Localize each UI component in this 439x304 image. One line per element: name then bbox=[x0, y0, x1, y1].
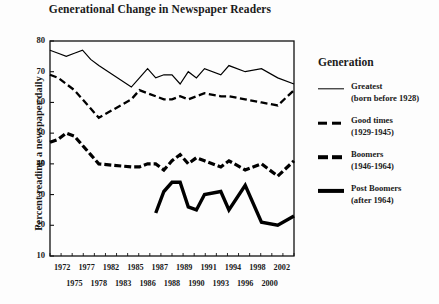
line-solid-thin-icon bbox=[318, 82, 344, 96]
legend-item-boomers[interactable]: Boomers (1946-1964) bbox=[318, 149, 439, 172]
series-line bbox=[50, 133, 294, 176]
y-tick-label: 80 bbox=[23, 35, 45, 45]
y-tick-label: 50 bbox=[23, 127, 45, 137]
legend-item-text: Good times (1929-1945) bbox=[351, 115, 394, 138]
legend-item-text: Boomers (1946-1964) bbox=[351, 149, 394, 172]
series-line bbox=[50, 50, 294, 87]
legend-item-sublabel: (after 1964) bbox=[351, 195, 401, 207]
plot-area: Percent reading a newspaper daily 102030… bbox=[0, 0, 330, 304]
legend-item-text: Post Boomers (after 1964) bbox=[351, 183, 401, 206]
legend-title: Generation bbox=[318, 56, 439, 68]
x-tick-label: 2000 bbox=[253, 279, 287, 288]
line-dashed-thick-icon bbox=[318, 150, 344, 164]
y-tick-label: 10 bbox=[23, 250, 45, 260]
y-tick-label: 30 bbox=[23, 189, 45, 199]
line-dashed-medium-icon bbox=[318, 116, 344, 130]
legend-item-sublabel: (1946-1964) bbox=[351, 161, 394, 173]
legend-item-label: Post Boomers bbox=[351, 183, 401, 193]
legend-item-good-times[interactable]: Good times (1929-1945) bbox=[318, 115, 439, 138]
legend-item-label: Good times bbox=[351, 115, 393, 125]
line-solid-thick-icon bbox=[318, 184, 344, 198]
legend-item-label: Boomers bbox=[351, 149, 383, 159]
series-line bbox=[50, 75, 294, 118]
series-line bbox=[156, 182, 294, 225]
legend-item-sublabel: (1929-1945) bbox=[351, 127, 394, 139]
plot-svg bbox=[0, 0, 330, 304]
legend-item-sublabel: (born before 1928) bbox=[351, 93, 419, 105]
y-tick-label: 40 bbox=[23, 158, 45, 168]
y-tick-label: 20 bbox=[23, 219, 45, 229]
y-tick-label: 60 bbox=[23, 96, 45, 106]
legend-item-text: Greatest (born before 1928) bbox=[351, 81, 419, 104]
legend-item-label: Greatest bbox=[351, 81, 382, 91]
y-tick-label: 70 bbox=[23, 66, 45, 76]
chart-page: Generational Change in Newspaper Readers… bbox=[0, 0, 439, 304]
x-tick-label: 2002 bbox=[265, 263, 299, 272]
legend-item-greatest[interactable]: Greatest (born before 1928) bbox=[318, 81, 439, 104]
legend: Generation Greatest (born before 1928) G… bbox=[318, 56, 439, 217]
legend-item-post-boomers[interactable]: Post Boomers (after 1964) bbox=[318, 183, 439, 206]
